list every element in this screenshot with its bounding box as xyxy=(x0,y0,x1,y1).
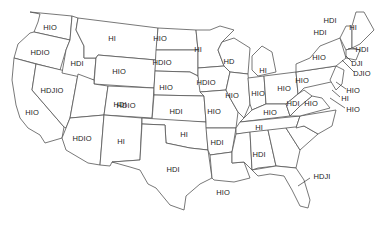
state-label-vt: HDI xyxy=(323,16,336,25)
state-label-or: HDIO xyxy=(30,48,49,57)
state-label-md: HIO xyxy=(346,105,360,114)
state-label-oh: HIO xyxy=(277,84,291,93)
state-label-az: HDIO xyxy=(72,134,91,143)
state-label-ri: DJI xyxy=(351,59,363,68)
state-label-de: HI xyxy=(341,94,349,103)
state-label-ok: HI xyxy=(180,130,188,139)
state-label-mt: HI xyxy=(108,34,116,43)
state-label-mn: HI xyxy=(194,45,202,54)
state-label-il: HIO xyxy=(225,91,239,100)
state-label-ks: HDI xyxy=(169,107,182,116)
state-label-nd: HIO xyxy=(153,34,167,43)
state-label-me: HI xyxy=(349,23,357,32)
state-label-va: HIO xyxy=(304,99,318,108)
state-label-co: HDIO xyxy=(116,101,135,110)
state-label-nm: HI xyxy=(117,137,125,146)
state-label-ct: DJIO xyxy=(353,69,370,78)
state-label-mi: HI xyxy=(259,66,267,75)
state-label-wa: HIO xyxy=(43,23,57,32)
state-label-la: HIO xyxy=(216,188,230,197)
state-label-sd: HDIO xyxy=(152,58,171,67)
state-label-wy: HIO xyxy=(112,67,126,76)
state-label-fl: HDJI xyxy=(313,172,330,181)
state-label-mo: HIO xyxy=(207,107,221,116)
state-label-al: HDI xyxy=(252,150,265,159)
state-label-nv: HDJIO xyxy=(41,86,64,95)
state-label-tn: HI xyxy=(255,123,263,132)
state-label-ne: HIO xyxy=(159,83,173,92)
state-label-id: HDI xyxy=(70,59,83,68)
state-label-wv: HDI xyxy=(286,99,299,108)
state-label-ia: HDIO xyxy=(196,78,215,87)
state-label-ny: HIO xyxy=(312,53,326,62)
state-label-nh: HDI xyxy=(313,28,326,37)
state-label-ky: HIO xyxy=(263,108,277,117)
state-label-in: HIO xyxy=(251,89,265,98)
state-label-pa: HIO xyxy=(295,76,309,85)
state-label-ca: HIO xyxy=(25,108,39,117)
state-label-wi: HD xyxy=(223,57,234,66)
state-label-tx: HDI xyxy=(166,165,179,174)
state-label-ma: HDI xyxy=(355,45,368,54)
state-label-ar: HDI xyxy=(210,138,223,147)
